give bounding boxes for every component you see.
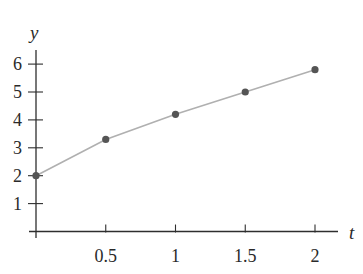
data-point xyxy=(102,136,109,143)
y-ticks: 123456 xyxy=(13,54,43,214)
series-line xyxy=(36,70,315,176)
y-tick-label: 5 xyxy=(13,82,22,102)
x-tick-label: 1.5 xyxy=(234,246,257,266)
data-point xyxy=(32,172,39,179)
y-tick-label: 1 xyxy=(13,194,22,214)
axes xyxy=(29,50,338,238)
y-axis-label: y xyxy=(28,22,39,43)
y-tick-label: 4 xyxy=(13,110,22,130)
y-tick-label: 3 xyxy=(13,138,22,158)
x-tick-label: 0.5 xyxy=(95,246,118,266)
data-point xyxy=(311,66,318,73)
line-chart: 0.511.52 123456 t y xyxy=(0,0,363,274)
y-tick-label: 6 xyxy=(13,54,22,74)
x-axis-label: t xyxy=(349,222,355,243)
x-tick-label: 1 xyxy=(171,246,180,266)
x-tick-label: 2 xyxy=(311,246,320,266)
x-ticks: 0.511.52 xyxy=(95,225,320,267)
y-tick-label: 2 xyxy=(13,166,22,186)
data-point xyxy=(242,88,249,95)
data-point xyxy=(172,111,179,118)
